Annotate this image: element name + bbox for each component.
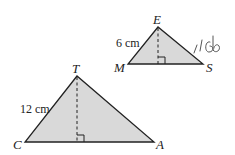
side-label-ct: 12 cm <box>20 102 50 116</box>
vertex-label-t: T <box>72 61 80 76</box>
triangle-tca: T C A 12 cm <box>13 61 164 152</box>
side-label-me: 6 cm <box>116 36 140 50</box>
triangle-ems: E M S 6 cm <box>113 12 213 75</box>
vertex-label-c: C <box>13 137 22 152</box>
vertex-label-s: S <box>206 60 213 75</box>
vertex-label-m: M <box>113 60 126 75</box>
vertex-label-a: A <box>155 137 164 152</box>
vertex-label-e: E <box>152 12 161 27</box>
similar-triangles-diagram: E M S 6 cm T C A 12 cm <box>0 0 235 155</box>
handwritten-annotation <box>194 36 219 53</box>
